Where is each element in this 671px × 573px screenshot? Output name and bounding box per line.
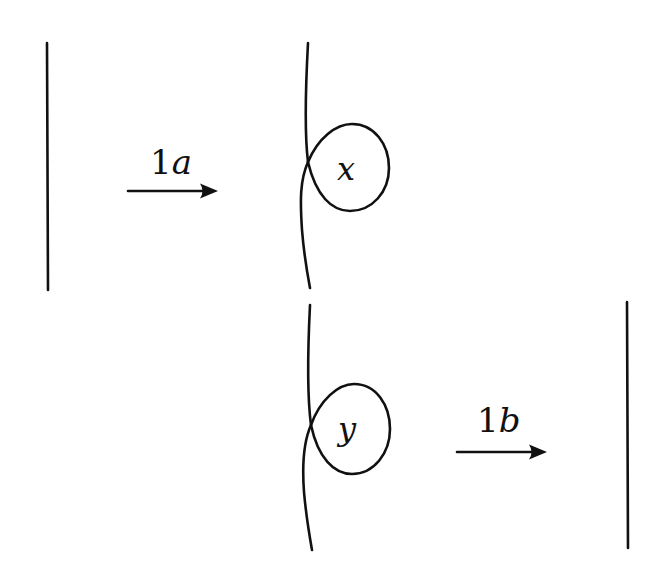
straight-strand-right bbox=[627, 302, 628, 548]
arrow-head-icon bbox=[529, 445, 547, 460]
strand-lower-segment bbox=[301, 162, 310, 288]
kinked-strand-y: y bbox=[303, 305, 390, 550]
arrow-1a: 1a bbox=[128, 142, 218, 199]
arrow-head-icon bbox=[200, 184, 218, 199]
straight-strand-left bbox=[47, 43, 48, 290]
loop-label-x: x bbox=[337, 150, 355, 188]
strand-upper-segment bbox=[308, 305, 311, 425]
reidemeister-diagram: 1a x y 1b bbox=[0, 0, 671, 573]
arrow-label-1b: 1b bbox=[477, 400, 520, 440]
strand-upper-segment bbox=[306, 43, 308, 162]
strand-lower-segment bbox=[303, 425, 312, 550]
loop-label-y: y bbox=[336, 410, 357, 448]
kinked-strand-x: x bbox=[301, 43, 389, 288]
arrow-1b: 1b bbox=[457, 400, 547, 460]
arrow-label-1a: 1a bbox=[150, 142, 192, 182]
